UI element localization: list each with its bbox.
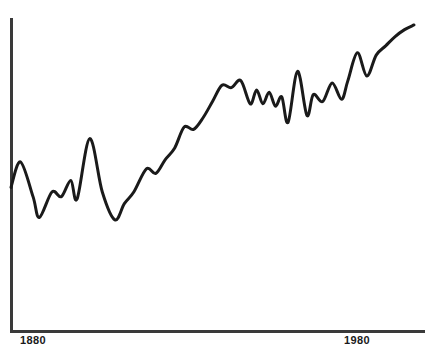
line-chart-plot (0, 0, 432, 356)
data-series-line (11, 25, 414, 220)
x-axis-tick-label-1980: 1980 (344, 334, 370, 346)
chart-container: 1880 1980 (0, 0, 432, 356)
x-axis-tick-label-1880: 1880 (20, 334, 46, 346)
